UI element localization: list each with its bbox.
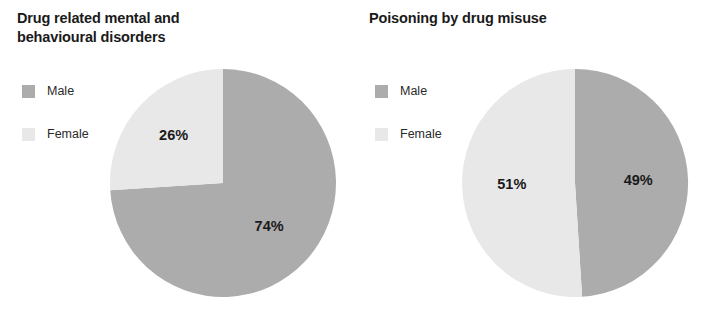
legend-swatch-female-icon	[375, 128, 388, 141]
pie-slice-label-female: 51%	[497, 176, 526, 192]
legend-label-female: Female	[47, 127, 89, 141]
pie-slice-label-female: 26%	[159, 127, 188, 143]
chart-title: Poisoning by drug misuse	[369, 9, 609, 28]
legend: Male Female	[375, 84, 442, 170]
legend-label-female: Female	[400, 127, 442, 141]
pie-chart-poisoning-by-drug-misuse: 49%51%	[461, 68, 689, 298]
pie-slice-label-male: 49%	[624, 172, 653, 188]
legend-label-male: Male	[47, 84, 74, 98]
legend-label-male: Male	[400, 84, 427, 98]
legend-item-female[interactable]: Female	[22, 127, 89, 141]
chart-panel-poisoning-by-drug-misuse: Poisoning by drug misuse Male Female 49%…	[357, 0, 715, 311]
pie-chart-drug-related-mental-disorders: 74%26%	[109, 68, 337, 298]
pie-slice-label-male: 74%	[255, 218, 284, 234]
legend-swatch-female-icon	[22, 128, 35, 141]
legend-item-male[interactable]: Male	[375, 84, 442, 98]
legend-swatch-male-icon	[22, 85, 35, 98]
legend-swatch-male-icon	[375, 85, 388, 98]
legend-item-male[interactable]: Male	[22, 84, 89, 98]
chart-title: Drug related mental and behavioural diso…	[17, 9, 247, 47]
legend: Male Female	[22, 84, 89, 170]
chart-panel-drug-related-mental-disorders: Drug related mental and behavioural diso…	[0, 0, 357, 311]
legend-item-female[interactable]: Female	[375, 127, 442, 141]
pie-svg: 74%26%	[109, 68, 337, 298]
pie-svg: 49%51%	[461, 68, 689, 298]
